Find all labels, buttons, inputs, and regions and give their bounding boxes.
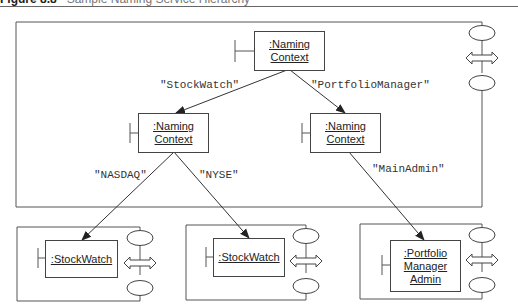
- edge-label-main-admin: "MainAdmin": [372, 163, 445, 175]
- stockwatch-nasdaq-object: :StockWatch: [45, 240, 118, 278]
- edge-label-stockwatch: "StockWatch": [160, 79, 239, 91]
- binding-edges: [82, 70, 424, 240]
- edge-label-nyse: "NYSE": [199, 169, 239, 181]
- portfolio-naming-context: :Naming Context: [310, 113, 381, 153]
- portfolio-manager-admin-object: :Portfolio Manager Admin: [390, 240, 461, 292]
- root-naming-context: :Naming Context: [254, 31, 325, 71]
- stockwatch-naming-context: :Naming Context: [138, 113, 209, 153]
- edge-label-nasdaq: "NASDAQ": [94, 169, 147, 181]
- stockwatch-nyse-object: :StockWatch: [213, 238, 285, 277]
- edge-label-portfolio-manager: "PortfolioManager": [311, 79, 430, 91]
